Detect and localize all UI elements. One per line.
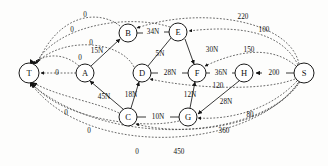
- edge-label-C-G: 10N: [152, 113, 165, 121]
- edge-label-D-F: 28N: [164, 69, 177, 77]
- edge-label-F-H: 36N: [215, 69, 228, 77]
- edge-label-H-G: 28N: [220, 98, 233, 106]
- edge-label-B-T: 0: [83, 11, 87, 19]
- node-label-S: S: [302, 68, 307, 78]
- edge-label-S-T: 0: [135, 148, 139, 156]
- node-F[interactable]: F: [188, 64, 206, 82]
- graph-svg: T A B E D F H: [0, 0, 328, 166]
- edge-label-B-E: 34N: [147, 28, 160, 36]
- edge-label-A-T-arc: 0: [78, 54, 82, 62]
- edge-label-G-T: 0: [87, 127, 91, 135]
- node-label-G: G: [185, 112, 191, 122]
- edge-label-D-E: 5N: [156, 50, 166, 58]
- node-T[interactable]: T: [19, 63, 39, 83]
- edge-label-S-H: 200: [269, 69, 280, 77]
- node-label-A: A: [82, 68, 89, 78]
- node-label-C: C: [125, 112, 131, 122]
- edge-label-E-T: 0: [70, 26, 74, 34]
- node-label-D: D: [139, 68, 145, 78]
- edge-label-E-F: 30N: [206, 46, 219, 54]
- edge-label-C-A: 45N: [98, 93, 111, 101]
- node-label-F: F: [195, 68, 200, 78]
- edge-label-S-F: 150: [244, 46, 255, 54]
- dashed-edge-S-T-450[interactable]: [31, 82, 300, 130]
- node-D[interactable]: D: [133, 64, 151, 82]
- node-G[interactable]: G: [179, 108, 197, 126]
- edge-label-S-C: 360: [219, 127, 230, 135]
- dashed-edge-group: [31, 17, 300, 137]
- edge-label-A-T: 0: [55, 69, 59, 77]
- node-E[interactable]: E: [169, 23, 187, 41]
- solid-edge-E-F[interactable]: [185, 39, 194, 64]
- edge-label-S-D: 120: [213, 82, 224, 90]
- node-label-B: B: [125, 28, 131, 38]
- dashed-edge-S-F[interactable]: [205, 52, 296, 66]
- node-label-T: T: [26, 68, 32, 78]
- node-H[interactable]: H: [235, 64, 253, 82]
- diagram-canvas: T A B E D F H: [0, 0, 328, 166]
- edge-label-G-F: 12N: [184, 91, 197, 99]
- dashed-edge-labels: 0 0 0 0 0 0 0 0 220 100 150 120 80 360 4…: [55, 11, 270, 156]
- edge-label-S-T-450: 450: [174, 148, 185, 156]
- edge-label-C-T: 0: [64, 109, 68, 117]
- node-A[interactable]: A: [76, 64, 94, 82]
- edge-label-D-T: 0: [89, 39, 93, 47]
- edge-label-A-B: 15N: [91, 47, 104, 55]
- node-label-H: H: [241, 68, 247, 78]
- edge-label-S-E: 100: [259, 26, 270, 34]
- node-label-E: E: [175, 27, 180, 37]
- node-B[interactable]: B: [119, 24, 137, 42]
- dashed-edge-S-T[interactable]: [32, 83, 298, 137]
- node-S[interactable]: S: [294, 63, 314, 83]
- node-C[interactable]: C: [119, 108, 137, 126]
- edge-label-S-G: 80: [246, 111, 254, 119]
- edge-label-S-B: 220: [238, 13, 249, 21]
- edge-label-C-D: 18N: [125, 91, 138, 99]
